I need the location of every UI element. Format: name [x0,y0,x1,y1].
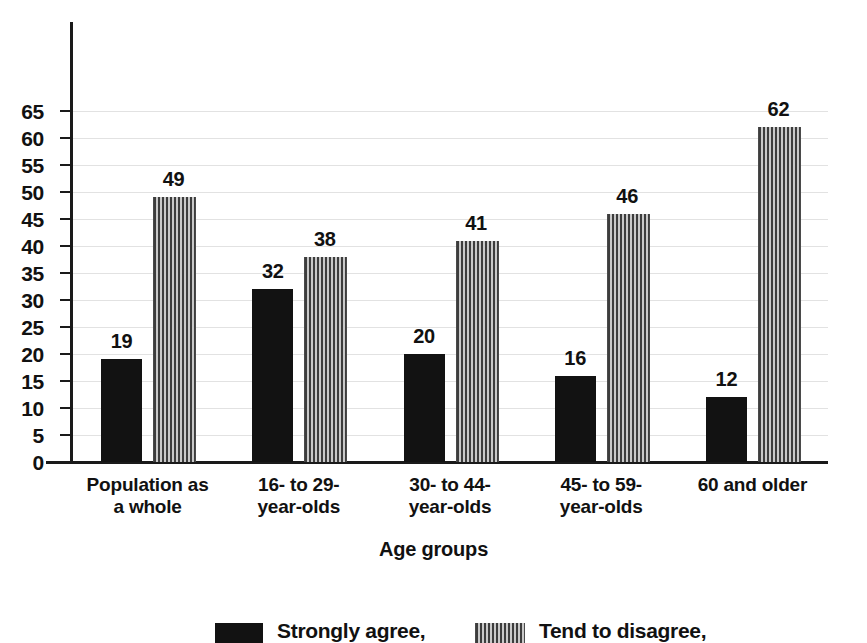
x-axis-category-label: 45- to 59- year-olds [526,474,677,519]
bar [758,127,801,462]
bar-value-label: 41 [444,213,509,233]
legend-item: Tend to disagree, [475,620,706,643]
y-axis-tick-label: 65 [0,101,44,122]
legend-label: Strongly agree, [277,620,425,641]
bar-value-label: 46 [595,186,660,206]
y-axis-tick-label: 25 [0,317,44,338]
y-axis-tick-label: 10 [0,398,44,419]
y-axis-tick-label: 20 [0,344,44,365]
y-axis-tick-label: 40 [0,236,44,257]
legend-swatch-striped [475,623,525,643]
x-axis-category-label: 16- to 29- year-olds [223,474,374,519]
bar-value-label: 32 [240,261,305,281]
y-axis-tick-label: 35 [0,263,44,284]
y-axis-tick-label: 0 [0,452,44,473]
bar [252,289,293,462]
y-axis-tick-label: 15 [0,371,44,392]
legend-label: Tend to disagree, [539,620,706,641]
bar-value-label: 19 [89,331,154,351]
bar-value-label: 49 [141,169,206,189]
bars-layer [72,30,828,462]
bar [555,376,596,462]
bar [456,241,499,462]
bar [304,257,347,462]
x-axis-category-label: 30- to 44- year-olds [374,474,525,519]
bar-value-label: 12 [694,369,759,389]
y-axis-tick-label: 30 [0,290,44,311]
y-axis-tick-label: 60 [0,128,44,149]
legend-swatch-solid [215,623,263,643]
y-axis-tick-label: 5 [0,425,44,446]
bar-value-label: 62 [746,99,811,119]
legend-item: Strongly agree, [215,620,425,643]
bar [607,214,650,462]
bar [706,397,747,462]
y-axis-tick-label: 45 [0,209,44,230]
bar [153,197,196,462]
bar-value-label: 38 [292,229,357,249]
x-axis-category-label: Population as a whole [72,474,223,519]
bar-chart: 05101520253035404550556065 1949323820411… [0,0,867,643]
bar [404,354,445,462]
x-axis-category-label: 60 and older [677,474,828,496]
bar-value-label: 16 [543,348,608,368]
x-axis-title: Age groups [0,538,867,561]
y-axis-tick-label: 50 [0,182,44,203]
bar-value-label: 20 [392,326,457,346]
y-axis-tick-label: 55 [0,155,44,176]
chart-legend: Strongly agree,Tend to disagree, [0,620,867,643]
bar [101,359,142,462]
